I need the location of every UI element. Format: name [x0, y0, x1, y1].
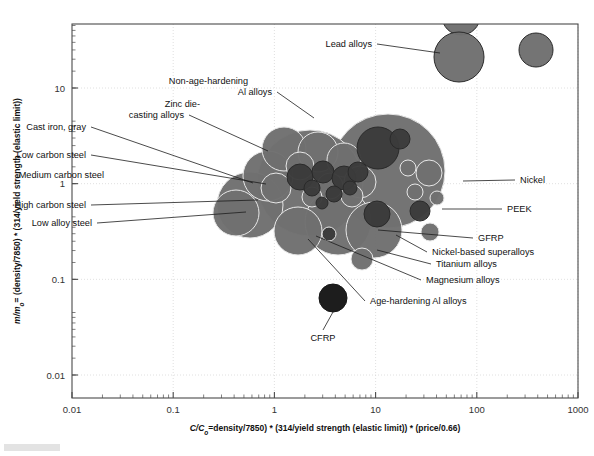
bubble-lower-small-b[interactable]: [421, 223, 439, 241]
bubble-dark-peek[interactable]: [410, 201, 430, 221]
bubble-nickel-small[interactable]: [416, 160, 442, 186]
annotation-label: Nickel-based superalloys: [432, 247, 535, 257]
annotation-label: High carbon steel: [15, 200, 87, 210]
annotation-label: CFRP: [310, 333, 335, 343]
bubble-dark-cluster-2[interactable]: [390, 129, 410, 149]
annotation-label: Medium carbon steel: [19, 170, 104, 180]
annotation-label: Cast iron, gray: [26, 122, 86, 132]
annotation-label: Magnesium alloys: [426, 275, 500, 285]
bubble-lead-alloys-right[interactable]: [519, 33, 553, 67]
annotation-label: Lead alloys: [326, 39, 373, 49]
bubble-dark-age-hard-al[interactable]: [364, 201, 390, 227]
annotation-label: Zinc die-: [165, 99, 200, 109]
bubble-nickel-small-2[interactable]: [400, 160, 416, 176]
annotation-label: Low alloy steel: [32, 218, 92, 228]
xtick-label-1: 1: [272, 404, 277, 415]
annotation-label: casting alloys: [129, 110, 185, 120]
annotation-label: Age-hardening Al alloys: [370, 296, 467, 306]
annotation-label: PEEK: [507, 204, 532, 214]
annotation-label: GFRP: [478, 233, 504, 243]
bubble-cfrp[interactable]: [319, 284, 347, 312]
bubble-lower-small-a[interactable]: [351, 248, 373, 270]
materials-selection-chart: 0.010.111010010001010.10.01 Lead alloysN…: [0, 0, 594, 456]
xtick-label-0.1: 0.1: [167, 404, 180, 415]
bubble-dark-cluster-10[interactable]: [316, 197, 328, 209]
bubble-dark-cluster-9[interactable]: [343, 181, 357, 195]
bubble-medium-carbon-steel[interactable]: [261, 173, 291, 203]
bubble-lead-alloys-main[interactable]: [434, 32, 484, 82]
xtick-label-1000: 1000: [567, 404, 588, 415]
plot-canvas: 0.010.111010010001010.10.01 Lead alloysN…: [0, 0, 594, 456]
xtick-label-100: 100: [469, 404, 485, 415]
ytick-label-0.01: 0.01: [47, 370, 66, 381]
bubble-right-small-a[interactable]: [430, 191, 444, 205]
ytick-label-0.1: 0.1: [52, 274, 65, 285]
bubble-dark-cluster-8[interactable]: [326, 186, 342, 202]
annotation-label: Titanium alloys: [436, 259, 497, 269]
bubble-dark-small-ellipse[interactable]: [322, 227, 336, 241]
bubble-dark-cluster-7[interactable]: [304, 180, 320, 196]
xtick-label-0.01: 0.01: [63, 404, 82, 415]
ytick-label-10: 10: [54, 83, 65, 94]
xtick-label-10: 10: [370, 404, 381, 415]
annotation-label: Nickel: [520, 175, 545, 185]
annotation-label: Non-age-hardening: [169, 76, 248, 86]
annotation-label: Al alloys: [238, 87, 273, 97]
annotation-label: Low carbon steel: [17, 150, 86, 160]
bubble-nickel-small-3[interactable]: [407, 184, 423, 200]
bubble-magnesium-alloys[interactable]: [274, 207, 322, 255]
bubble-dark-cluster-6[interactable]: [348, 162, 368, 182]
bubble-dark-cluster-4[interactable]: [312, 161, 334, 183]
page-footer-mark: [4, 444, 60, 451]
